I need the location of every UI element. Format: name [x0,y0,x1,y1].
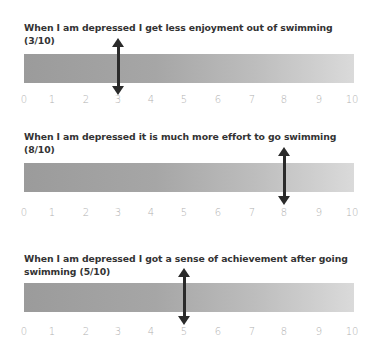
scale-title: When I am depressed it is much more effo… [24,130,354,156]
tick-label: 10 [346,94,359,105]
tick-label: 7 [249,207,255,218]
tick-label: 6 [215,326,221,337]
tick-label: 8 [281,207,287,218]
tick-label: 2 [83,94,89,105]
double-arrow-marker-icon [278,147,290,205]
tick-label: 8 [281,94,287,105]
tick-label: 0 [21,94,27,105]
tick-label: 10 [346,207,359,218]
tick-label: 10 [346,326,359,337]
tick-label: 5 [181,207,187,218]
tick-label: 1 [49,207,55,218]
tick-label: 7 [249,326,255,337]
tick-label: 9 [316,94,322,105]
scale-bar [24,54,354,83]
tick-label: 6 [215,94,221,105]
double-arrow-marker-icon [178,268,190,325]
tick-label: 4 [148,326,154,337]
double-arrow-marker-icon [112,38,124,95]
tick-label: 3 [115,207,121,218]
tick-label: 4 [148,207,154,218]
tick-label: 0 [21,326,27,337]
tick-label: 4 [148,94,154,105]
tick-label: 5 [181,94,187,105]
tick-label: 2 [83,207,89,218]
tick-label: 7 [249,94,255,105]
scale-title: When I am depressed I get less enjoyment… [24,21,354,47]
tick-label: 3 [115,94,121,105]
tick-label: 6 [215,207,221,218]
tick-label: 9 [316,207,322,218]
tick-label: 1 [49,94,55,105]
tick-label: 5 [181,326,187,337]
tick-label: 0 [21,207,27,218]
scale-bar [24,163,354,192]
tick-label: 3 [115,326,121,337]
tick-label: 2 [83,326,89,337]
tick-label: 9 [316,326,322,337]
tick-label: 1 [49,326,55,337]
tick-label: 8 [281,326,287,337]
